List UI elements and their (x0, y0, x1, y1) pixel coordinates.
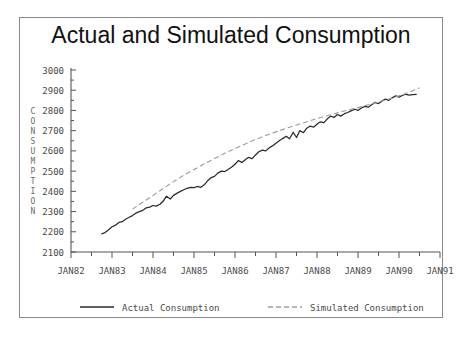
y-axis-title-letter: N (31, 207, 36, 216)
y-axis-title-letter: I (31, 187, 36, 196)
y-tick-label: 3000 (42, 66, 64, 76)
series-line-actual (102, 94, 416, 234)
legend-label-actual: Actual Consumption (122, 303, 220, 313)
y-tick-label: 2200 (42, 227, 64, 237)
x-tick-label: JAN89 (344, 266, 371, 276)
series-line-simulated (133, 88, 420, 209)
x-tick-label: JAN86 (221, 266, 248, 276)
y-tick-label: 2600 (42, 146, 64, 156)
y-tick-label: 2400 (42, 187, 64, 197)
y-tick-label: 2100 (42, 248, 64, 258)
x-tick-label: JAN84 (139, 266, 166, 276)
x-tick-label: JAN91 (426, 266, 453, 276)
x-tick-label: JAN82 (57, 266, 84, 276)
y-tick-label: 2900 (42, 86, 64, 96)
plot-canvas: 3000290028002700260025002400230022002100… (0, 0, 462, 337)
y-axis-title-letter: N (31, 127, 36, 136)
y-axis-title-letter: C (31, 107, 36, 116)
y-tick-label: 2500 (42, 167, 64, 177)
x-tick-label: JAN85 (180, 266, 207, 276)
y-tick-label: 2700 (42, 126, 64, 136)
y-axis-title-letter: O (31, 117, 36, 126)
x-tick-label: JAN83 (98, 266, 125, 276)
y-axis-title-letter: P (31, 167, 36, 176)
legend-label-simulated: Simulated Consumption (310, 303, 424, 313)
y-axis-title-letter: S (31, 137, 36, 146)
y-tick-label: 2300 (42, 207, 64, 217)
y-axis-title-letter: T (31, 177, 36, 186)
y-axis-title-letter: U (31, 147, 36, 156)
chart-figure: Actual and Simulated Consumption 3000290… (0, 0, 462, 337)
y-axis-title-letter: M (31, 157, 36, 166)
y-tick-label: 2800 (42, 106, 64, 116)
y-axis-title-letter: O (31, 197, 36, 206)
x-tick-label: JAN88 (303, 266, 330, 276)
x-tick-label: JAN87 (262, 266, 289, 276)
x-tick-label: JAN90 (385, 266, 412, 276)
